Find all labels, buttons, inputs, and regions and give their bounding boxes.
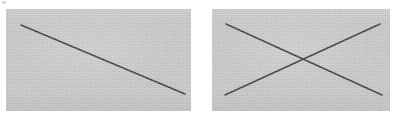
scan-speck-artifact xyxy=(2,1,6,4)
single-diagonal-panel xyxy=(6,9,191,111)
figure-root xyxy=(0,0,397,121)
line-top-left-to-bottom-right xyxy=(21,25,185,94)
crossed-diagonals-panel xyxy=(212,9,390,111)
crossed-diagonal-lines xyxy=(212,9,390,111)
single-diagonal-lines xyxy=(6,9,191,111)
